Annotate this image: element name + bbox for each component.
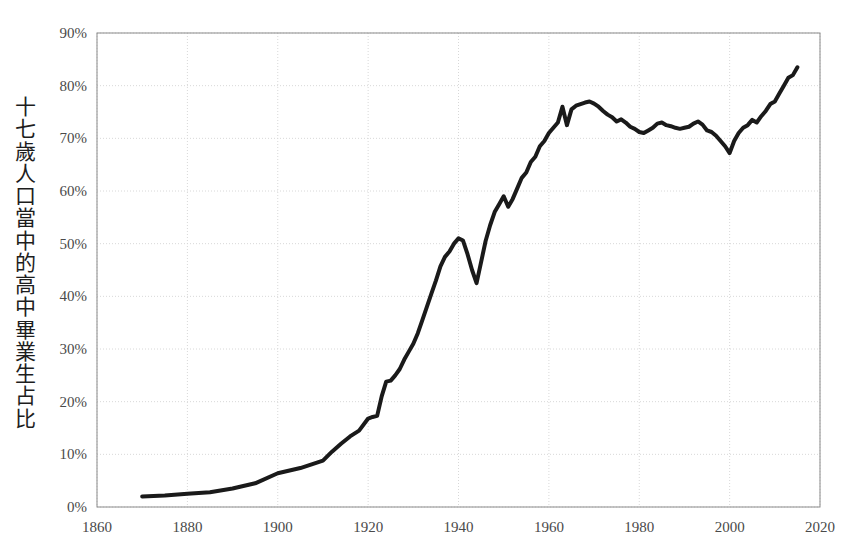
x-tick-label: 1860 [82, 519, 112, 535]
y-tick-label: 80% [60, 78, 88, 94]
series-group [142, 67, 797, 496]
x-tick-label: 2020 [805, 519, 835, 535]
chart-container: 十七歲人口當中的高中畢業生占比 0%10%20%30%40%50%60%70%8… [0, 0, 850, 560]
x-tick-label: 1900 [263, 519, 293, 535]
x-tick-label: 1940 [444, 519, 474, 535]
x-tick-label: 1920 [353, 519, 383, 535]
y-tick-label: 50% [60, 236, 88, 252]
line-chart: 0%10%20%30%40%50%60%70%80%90% 1860188019… [0, 0, 850, 560]
series-line [142, 67, 797, 496]
y-tick-label: 20% [60, 394, 88, 410]
x-tick-label: 1980 [624, 519, 654, 535]
x-tick-labels: 186018801900192019401960198020002020 [82, 519, 835, 535]
y-tick-label: 70% [60, 130, 88, 146]
x-tick-label: 1880 [172, 519, 202, 535]
y-axis-label: 十七歲人口當中的高中畢業生占比 [8, 96, 42, 430]
y-tick-label: 90% [60, 25, 88, 41]
y-tick-label: 60% [60, 183, 88, 199]
y-tick-label: 0% [67, 499, 87, 515]
x-tick-label: 2000 [715, 519, 745, 535]
y-tick-label: 40% [60, 288, 88, 304]
y-tick-label: 30% [60, 341, 88, 357]
y-tick-label: 10% [60, 446, 88, 462]
y-tick-labels: 0%10%20%30%40%50%60%70%80%90% [60, 25, 88, 515]
x-tick-label: 1960 [534, 519, 564, 535]
gridlines-group [97, 33, 820, 507]
